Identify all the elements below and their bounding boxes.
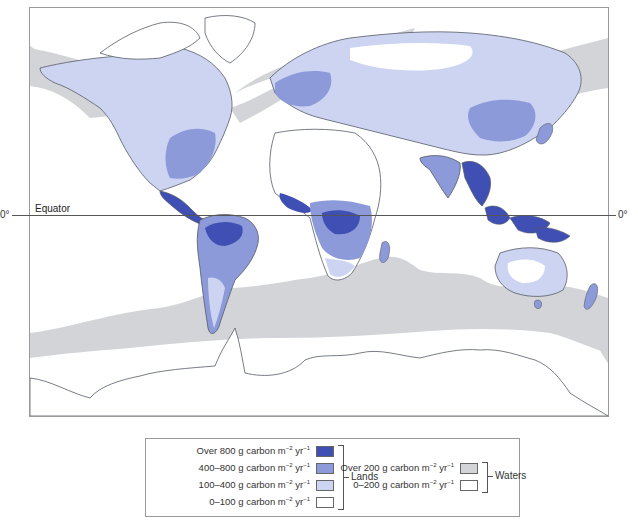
greenland [205, 16, 255, 63]
legend: Over 800 g carbon m−2 yr−1 400–800 g car… [145, 438, 520, 517]
southeast-asia [462, 161, 491, 206]
north-america-east [165, 129, 215, 179]
latitude-label-right: 0° [618, 209, 628, 220]
central-america [160, 191, 205, 224]
equator-label: Equator [35, 203, 70, 214]
legend-row-land-100-400: 100–400 g carbon m−2 yr−1 [146, 478, 334, 492]
waters-group-label: Waters [495, 470, 526, 481]
indonesia-3 [535, 227, 570, 242]
legend-label: 100–400 g carbon m−2 yr−1 [199, 479, 310, 490]
legend-label: 0–200 g carbon m−2 yr−1 [353, 479, 454, 490]
latitude-label-left: 0° [0, 209, 10, 220]
legend-label: 0–100 g carbon m−2 yr−1 [209, 496, 310, 507]
legend-swatch-dark-blue [316, 446, 334, 457]
legend-row-water-0-200: 0–200 g carbon m−2 yr−1 [316, 478, 478, 492]
legend-row-water-over-200: Over 200 g carbon m−2 yr−1 [316, 461, 478, 475]
tasmania [534, 300, 541, 308]
east-asia [468, 100, 535, 142]
legend-row-land-over-800: Over 800 g carbon m−2 yr−1 [146, 444, 334, 458]
south-asia [420, 156, 460, 198]
legend-swatch-white [316, 497, 334, 508]
legend-label: Over 800 g carbon m−2 yr−1 [197, 445, 311, 456]
world-productivity-map [29, 7, 609, 417]
waters-bracket [482, 462, 488, 493]
legend-swatch-white-water [460, 480, 478, 491]
legend-swatch-gray [460, 463, 478, 474]
legend-label: 400–800 g carbon m−2 yr−1 [199, 462, 310, 473]
map-graphic [30, 8, 608, 416]
legend-row-land-400-800: 400–800 g carbon m−2 yr−1 [146, 461, 334, 475]
legend-row-land-0-100: 0–100 g carbon m−2 yr−1 [146, 495, 334, 509]
legend-label: Over 200 g carbon m−2 yr−1 [341, 462, 455, 473]
waters-bracket-tick [488, 476, 493, 477]
equator-line [12, 215, 616, 216]
